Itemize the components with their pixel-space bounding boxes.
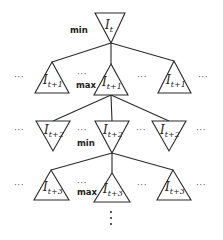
node-level-2-middle: It+2 [95,121,129,153]
node-level-3-left: It+3 [34,170,69,200]
node-level-3-right: It+3 [157,170,191,200]
ellipsis: ··· [136,125,146,135]
game-tree-diagram: It min It+1 It+1 It+1 max ··· ··· ··· ··… [0,0,223,240]
role-label-min: min [77,138,95,148]
node-level-1-middle: It+1 [94,64,128,95]
node-level-2-right: It+2 [152,121,186,151]
node-level-3-middle: It+3 [94,173,130,202]
role-label-max: max [76,80,97,90]
ellipsis: ··· [196,125,206,135]
node-level-0-root: It [95,13,125,43]
ellipsis: ··· [14,72,24,82]
vertical-continuation-icon [110,211,112,225]
ellipsis: ··· [14,180,24,190]
ellipsis: ··· [77,69,87,79]
ellipsis: ··· [196,180,206,190]
ellipsis: ··· [77,125,87,135]
node-level-1-left: It+1 [35,62,69,93]
node-level-1-right: It+1 [158,61,191,93]
role-label-min: min [70,25,88,35]
edges-level-0 [52,43,174,64]
ellipsis: ··· [137,180,147,190]
ellipsis: ··· [137,72,147,82]
ellipsis: ··· [77,178,87,188]
edges-level-2 [51,153,173,173]
ellipsis: ··· [14,125,24,135]
node-level-2-left: It+2 [36,121,70,151]
role-label-max: max [77,187,98,197]
ellipsis: ··· [198,72,208,82]
edges-level-1 [53,95,169,121]
